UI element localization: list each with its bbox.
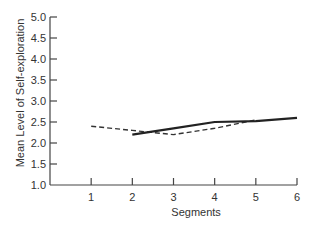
x-tick-label: 3 <box>170 191 176 203</box>
x-tick-label: 1 <box>88 191 94 203</box>
axes <box>50 17 297 185</box>
x-axis-title: Segments <box>171 206 221 218</box>
x-tick-label: 6 <box>294 191 300 203</box>
x-tick-label: 4 <box>212 191 218 203</box>
y-axis-title: Mean Level of Self-exploration <box>14 19 26 168</box>
y-tick-label: 5.0 <box>31 11 46 23</box>
x-ticks: 123456 <box>88 178 300 203</box>
y-tick-label: 1.5 <box>31 158 46 170</box>
y-tick-label: 4.5 <box>31 32 46 44</box>
y-tick-label: 4.0 <box>31 53 46 65</box>
y-ticks: 1.01.52.02.53.03.54.04.55.0 <box>31 11 57 191</box>
x-tick-label: 5 <box>253 191 259 203</box>
y-tick-label: 2.5 <box>31 116 46 128</box>
y-tick-label: 1.0 <box>31 179 46 191</box>
y-tick-label: 3.0 <box>31 95 46 107</box>
line-chart: 1.01.52.02.53.03.54.04.55.0 123456 Segme… <box>0 0 314 227</box>
series-layer <box>91 118 297 135</box>
x-tick-label: 2 <box>129 191 135 203</box>
y-tick-label: 3.5 <box>31 74 46 86</box>
y-tick-label: 2.0 <box>31 137 46 149</box>
series-line-solid <box>132 118 297 135</box>
